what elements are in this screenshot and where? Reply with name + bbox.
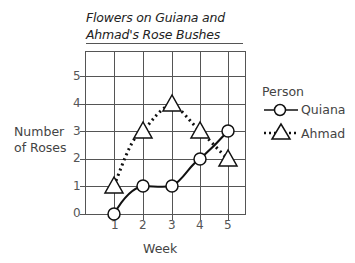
circle-marker: [137, 180, 149, 192]
legend-circle-icon: [275, 105, 286, 116]
legend-triangle-icon: [272, 124, 290, 139]
grid: [80, 51, 246, 220]
legend-title: Person: [262, 84, 304, 99]
circle-marker: [166, 180, 178, 192]
legend-label-quiana: Quiana: [301, 102, 345, 117]
triangle-marker: [163, 95, 181, 111]
circle-marker: [194, 153, 206, 165]
triangle-marker: [219, 150, 237, 166]
series-ahmad: [105, 95, 237, 193]
legend-symbols: [264, 105, 298, 140]
series-quiana: [108, 125, 234, 220]
legend-label-ahmad: Ahmad: [301, 126, 345, 141]
circle-marker: [222, 125, 234, 137]
triangle-marker: [105, 177, 123, 193]
circle-marker: [108, 208, 120, 220]
